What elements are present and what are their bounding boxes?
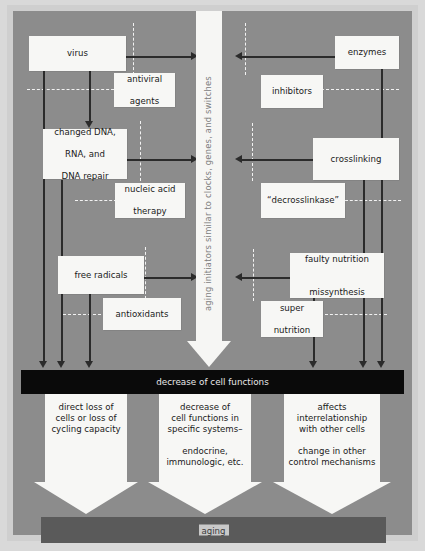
arrowhead-faultynutrition-to-center xyxy=(235,273,242,281)
antiviral-line-2: agents xyxy=(127,96,162,107)
dash-supernutrition-horizontal xyxy=(325,314,387,315)
outcome-interrelationship-text2: change in other control mechanisms xyxy=(284,446,380,468)
outcome-arrow-interrelationship-tip xyxy=(273,482,391,514)
box-virus[interactable]: virus xyxy=(29,36,126,71)
box-enzymes-label: enzymes xyxy=(348,47,386,58)
aging-band: aging xyxy=(41,517,386,543)
box-antiviral-agents-label: antiviral agents xyxy=(127,74,162,107)
box-faulty-nutrition-label: faulty nutrition missynthesis xyxy=(305,254,369,298)
dash-antioxidants-vertical xyxy=(145,247,146,299)
outcome-specific-systems-text: decrease of cell functions in specific s… xyxy=(159,402,251,436)
interrelationship-line-1: affects xyxy=(317,402,346,412)
direct-loss-line-2: cells or loss of xyxy=(55,413,116,423)
outcome-arrow-direct-loss: direct loss of cells or loss of cycling … xyxy=(45,394,127,514)
decrease-of-cell-functions-band: decrease of cell functions xyxy=(21,370,404,394)
specific-systems-line2-1: endocrine, xyxy=(182,446,228,456)
dash-supernutrition-vertical xyxy=(253,249,254,301)
box-decrosslinkase-label: “decrosslinkase” xyxy=(267,195,339,206)
box-faulty-nutrition[interactable]: faulty nutrition missynthesis xyxy=(290,253,384,298)
antiviral-line-1: antiviral xyxy=(127,74,162,85)
box-nucleic-acid-therapy-label: nucleic acid therapy xyxy=(125,184,176,217)
interrelationship-line-2: interrelationship xyxy=(297,413,367,423)
box-nucleic-acid-therapy[interactable]: nucleic acid therapy xyxy=(115,183,185,218)
box-antioxidants[interactable]: antioxidants xyxy=(103,298,181,330)
arrowhead-virus-down-long xyxy=(39,361,47,368)
line-dna-to-center xyxy=(126,159,193,161)
line-enzymes-down-long xyxy=(381,69,383,363)
dash-inhibitors-vertical xyxy=(245,23,246,75)
super-nutrition-line-1: super xyxy=(274,303,311,314)
box-changed-dna-label: changed DNA, RNA, and DNA repair xyxy=(54,127,115,182)
outcome-arrow-affects-interrelationship: affects interrelationship with other cel… xyxy=(284,394,380,514)
line-virus-to-center xyxy=(126,56,193,58)
specific-systems-line-1: decrease of xyxy=(180,402,230,412)
interrelationship-line2-2: control mechanisms xyxy=(289,457,376,467)
direct-loss-line-1: direct loss of xyxy=(59,402,114,412)
line-virus-to-dna xyxy=(89,69,91,123)
interrelationship-line-3: with other cells xyxy=(299,424,365,434)
arrowhead-enzymes-to-center xyxy=(235,52,242,60)
dash-nucleic-horizontal xyxy=(75,200,117,201)
arrowhead-dna-down-long xyxy=(57,361,65,368)
arrowhead-crosslinking-down-long xyxy=(359,361,367,368)
nucleic-line-1: nucleic acid xyxy=(125,184,176,195)
specific-systems-line-2: cell functions in xyxy=(171,413,239,423)
outcome-direct-loss-text: direct loss of cells or loss of cycling … xyxy=(45,402,127,436)
arrowhead-freeradicals-down-long xyxy=(85,361,93,368)
line-virus-down-long xyxy=(43,69,45,363)
box-crosslinking-label: crosslinking xyxy=(331,154,382,165)
changed-dna-line-2: RNA, and xyxy=(54,149,115,160)
line-crosslinking-to-center xyxy=(241,159,313,161)
dash-decrosslinkase-horizontal xyxy=(345,200,401,201)
box-changed-dna[interactable]: changed DNA, RNA, and DNA repair xyxy=(43,129,127,179)
box-antiviral-agents[interactable]: antiviral agents xyxy=(114,73,175,107)
aging-label: aging xyxy=(198,525,228,536)
interrelationship-line2-1: change in other xyxy=(298,446,366,456)
box-inhibitors-label: inhibitors xyxy=(272,86,312,97)
line-faultynutrition-to-center xyxy=(241,277,291,279)
outcome-specific-systems-text2: endocrine, immunologic, etc. xyxy=(159,446,251,468)
box-virus-label: virus xyxy=(67,48,88,59)
nucleic-line-2: therapy xyxy=(125,206,176,217)
box-free-radicals[interactable]: free radicals xyxy=(58,256,144,294)
central-arrow-label: aging initiators similar to clocks, gene… xyxy=(203,76,213,311)
dash-decrosslinkase-vertical xyxy=(252,123,253,181)
outcome-arrow-decrease-specific-systems: decrease of cell functions in specific s… xyxy=(159,394,251,514)
central-arrow-head xyxy=(187,341,231,367)
specific-systems-line-3: specific systems– xyxy=(167,424,242,434)
missynthesis-line: missynthesis xyxy=(305,287,369,298)
changed-dna-line-3: DNA repair xyxy=(54,171,115,182)
box-inhibitors[interactable]: inhibitors xyxy=(261,75,323,108)
super-nutrition-line-2: nutrition xyxy=(274,325,311,336)
box-antioxidants-label: antioxidants xyxy=(116,309,169,320)
arrowhead-faultynutrition-down-long xyxy=(309,361,317,368)
faulty-nutrition-line-1: faulty nutrition xyxy=(305,254,369,265)
dash-antiviral-horizontal xyxy=(27,89,119,90)
box-free-radicals-label: free radicals xyxy=(74,270,127,281)
line-enzymes-to-center xyxy=(241,56,335,58)
changed-dna-line-1: changed DNA, xyxy=(54,127,115,138)
diagram-canvas: aging initiators similar to clocks, gene… xyxy=(13,11,412,535)
direct-loss-line-3: cycling capacity xyxy=(51,424,120,434)
box-decrosslinkase[interactable]: “decrosslinkase” xyxy=(261,183,345,218)
specific-systems-line2-2: immunologic, etc. xyxy=(166,457,243,467)
line-freeradicals-to-center xyxy=(143,277,193,279)
arrowhead-enzymes-down-long xyxy=(377,361,385,368)
line-freeradicals-down-long xyxy=(89,294,91,363)
dash-antiviral-vertical xyxy=(133,23,134,75)
outcome-arrow-direct-loss-tip xyxy=(34,482,138,514)
dash-nucleic-vertical xyxy=(140,121,141,181)
box-crosslinking[interactable]: crosslinking xyxy=(313,138,399,180)
box-super-nutrition-label: super nutrition xyxy=(274,303,311,336)
decrease-of-cell-functions-label: decrease of cell functions xyxy=(21,377,404,387)
arrowhead-crosslinking-to-center xyxy=(235,155,242,163)
diagram-page: aging initiators similar to clocks, gene… xyxy=(0,0,425,551)
box-enzymes[interactable]: enzymes xyxy=(335,36,399,69)
outcome-interrelationship-text: affects interrelationship with other cel… xyxy=(284,402,380,436)
box-super-nutrition[interactable]: super nutrition xyxy=(261,301,323,337)
outcome-arrow-specific-systems-tip xyxy=(148,482,262,514)
